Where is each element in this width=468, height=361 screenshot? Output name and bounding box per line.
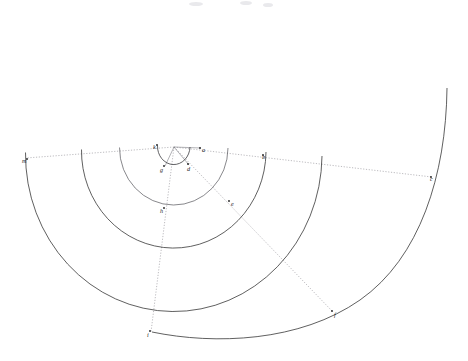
label-e: e [231,200,234,207]
point-h [163,207,165,209]
label-i: i [147,331,149,338]
label-b: b [262,153,265,160]
point-f [331,310,333,312]
label-c: c [430,175,433,182]
point-k [156,144,158,146]
label-a: a [202,146,205,153]
label-h: h [160,207,163,214]
label-k: k [153,143,156,150]
label-m: m [22,157,27,164]
point-e [228,200,230,202]
figure-canvas: a b c d e f g h i k m [0,0,468,361]
figure-background [0,0,468,361]
label-g: g [160,166,163,173]
point-a [199,147,201,149]
spiral-construction-figure: a b c d e f g h i k m [0,0,468,361]
point-i [149,330,151,332]
point-g [163,165,165,167]
